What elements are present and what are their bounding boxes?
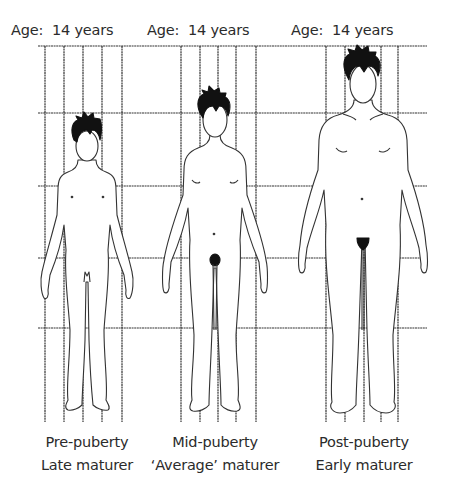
leg-gap bbox=[213, 264, 217, 330]
caption-post-puberty: Post-puberty Early maturer bbox=[306, 431, 422, 477]
body-outline bbox=[163, 135, 268, 411]
caption-stage: Mid-puberty bbox=[150, 431, 280, 454]
caption-maturity: Early maturer bbox=[306, 454, 422, 477]
caption-maturity: Late maturer bbox=[32, 454, 142, 477]
caption-pre-puberty: Pre-puberty Late maturer bbox=[32, 431, 142, 477]
figure-post-puberty bbox=[299, 45, 428, 413]
pubic-hair bbox=[210, 254, 220, 266]
navel bbox=[361, 198, 363, 200]
body-outline bbox=[299, 100, 428, 413]
leg-gap bbox=[362, 250, 364, 330]
growth-grid-diagram bbox=[0, 0, 450, 499]
caption-stage: Pre-puberty bbox=[32, 431, 142, 454]
caption-mid-puberty: Mid-puberty ‘Average’ maturer bbox=[150, 431, 280, 477]
caption-stage: Post-puberty bbox=[306, 431, 422, 454]
navel bbox=[213, 233, 215, 235]
figure-mid-puberty bbox=[163, 86, 268, 411]
nipple bbox=[102, 196, 104, 198]
figure-pre-puberty bbox=[41, 112, 133, 410]
caption-maturity: ‘Average’ maturer bbox=[150, 454, 280, 477]
nipple bbox=[71, 196, 73, 198]
body-outline bbox=[41, 160, 133, 410]
